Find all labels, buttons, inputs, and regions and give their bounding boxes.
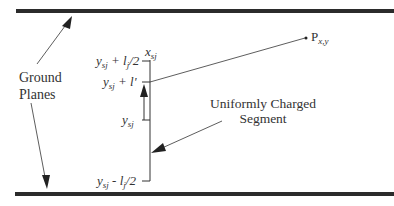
diagram-canvas: [0, 0, 394, 206]
mid-rest: + l': [115, 74, 137, 89]
top-ground-plane: [16, 9, 394, 13]
ground-arrow-down-line: [31, 103, 45, 177]
segment-label-line1: Uniformly Charged: [209, 96, 317, 111]
x-sj-label: xsj: [145, 45, 157, 63]
bottom-tail: /2: [126, 173, 136, 188]
top-endpoint-label: ysj + lj/2: [96, 54, 139, 72]
p-sub: x,y: [318, 36, 328, 46]
lprime-label: ysj + l': [103, 75, 136, 93]
lprime-arrow-head: [140, 84, 148, 97]
segment-label: Uniformly Charged Segment: [209, 96, 317, 126]
center-sub: sj: [128, 119, 134, 129]
ground-arrow-up-line: [37, 22, 68, 64]
bottom-ground-plane: [15, 192, 394, 196]
x-sub: sj: [151, 51, 157, 61]
top-rest: + l: [108, 53, 127, 68]
ground-planes-label-line1: Ground: [19, 69, 62, 86]
segment-arrow-head: [151, 143, 166, 153]
ground-planes-label: Ground Planes: [19, 69, 62, 103]
bottom-endpoint-label: ysj - lj/2: [97, 174, 136, 192]
top-tail: /2: [129, 53, 139, 68]
point-p-dot: [305, 37, 308, 40]
ground-planes-label-line2: Planes: [19, 86, 62, 103]
ground-arrow-up-head: [62, 16, 72, 29]
center-label: ysj: [122, 113, 134, 131]
point-p-label: Px,y: [311, 30, 328, 48]
segment-label-line2: Segment: [209, 111, 317, 126]
distance-line: [150, 38, 305, 82]
bottom-rest: - l: [109, 173, 123, 188]
ground-arrow-down-head: [42, 175, 50, 189]
